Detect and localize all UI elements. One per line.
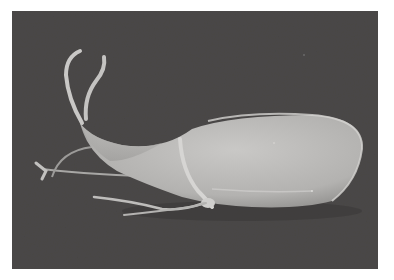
- micrograph-frame: [12, 11, 378, 269]
- micrograph-image: [12, 11, 378, 269]
